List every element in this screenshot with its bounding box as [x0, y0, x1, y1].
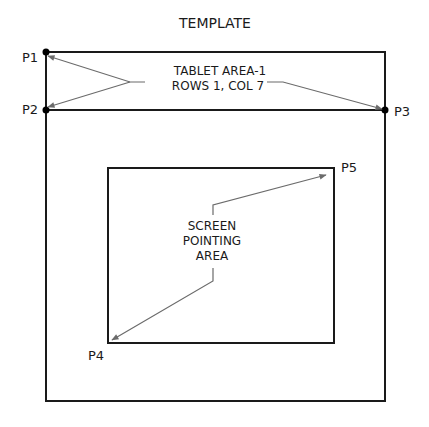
label-p4: P4	[88, 348, 104, 363]
tablet-area-label-line2: ROWS 1, COL 7	[172, 79, 264, 93]
leader-to-p5	[213, 175, 326, 215]
screen-area-label-line3: AREA	[196, 249, 229, 263]
tablet-template-diagram: TEMPLATE P1 P2 P3 P4 P5 TABLET AREA-1 RO…	[0, 0, 429, 427]
diagram-title: TEMPLATE	[178, 15, 251, 31]
leader-to-p2	[48, 82, 130, 107]
leader-to-p1	[48, 56, 145, 82]
screen-area-label-line1: SCREEN	[188, 219, 236, 233]
point-p1-marker	[43, 49, 50, 56]
label-p2: P2	[22, 102, 38, 117]
tablet-area-label-line1: TABLET AREA-1	[173, 64, 266, 78]
point-p2-marker	[43, 107, 50, 114]
label-p3: P3	[394, 104, 410, 119]
leader-to-p3	[267, 82, 382, 109]
point-p3-marker	[382, 107, 389, 114]
label-p5: P5	[341, 160, 357, 175]
label-p1: P1	[22, 50, 38, 65]
screen-area-label-line2: POINTING	[183, 234, 241, 248]
leader-to-p4	[112, 268, 213, 340]
